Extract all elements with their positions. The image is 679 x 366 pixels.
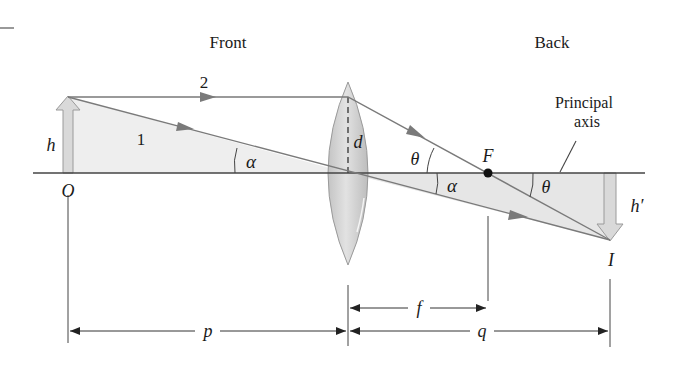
principal-axis-label-line1: Principal [555, 94, 613, 112]
ray-2-arrowhead-1 [200, 92, 216, 102]
principal-axis-label-line2: axis [574, 113, 600, 130]
angle-theta-right-label: θ [542, 177, 551, 197]
ray-2-label: 2 [200, 73, 209, 92]
thin-lens-diagram: Front Back 2 1 h O d α α θ θ F Principal… [0, 0, 679, 366]
ray-2-arrowhead-2 [406, 125, 425, 138]
image-distance-label: q [478, 321, 487, 341]
angle-alpha-left-label: α [246, 151, 257, 172]
angle-theta-left-label: θ [411, 149, 420, 169]
focal-point-label: F [482, 146, 495, 166]
front-label: Front [210, 33, 247, 52]
focal-point-dot [484, 169, 493, 178]
angle-alpha-right-label: α [447, 175, 458, 196]
object-distance-label: p [202, 321, 213, 341]
object-height-label: h [47, 135, 56, 155]
image-point-label: I [607, 250, 615, 270]
focal-length-label: f [416, 298, 424, 318]
lens-half-height-label: d [354, 132, 364, 152]
image-height-label: h′ [631, 196, 645, 216]
principal-axis-leader [560, 141, 576, 172]
object-point-label: O [62, 181, 75, 201]
ray-1-label: 1 [137, 130, 146, 149]
theta-arc-left [427, 148, 434, 173]
back-label: Back [535, 33, 570, 52]
